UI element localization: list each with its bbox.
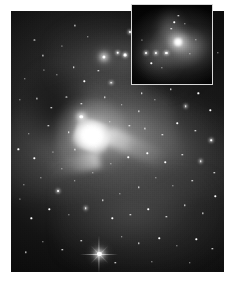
astronomy-figure: [0, 0, 235, 283]
inset-detail-panel: [131, 4, 213, 85]
nebulosity-lower: [58, 173, 224, 272]
inset-core-knot: [174, 38, 183, 46]
